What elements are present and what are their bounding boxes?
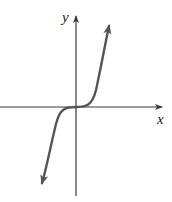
y-axis-label: y	[62, 10, 69, 25]
x-axis-label: x	[157, 112, 164, 127]
curve-lower-branch	[42, 107, 76, 183]
cubic-plot	[0, 0, 172, 202]
curve-upper-branch	[76, 26, 109, 107]
